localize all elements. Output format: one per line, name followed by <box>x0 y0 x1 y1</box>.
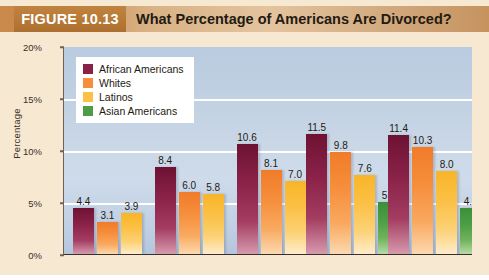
bar-wrapper: 9.8 <box>330 47 351 254</box>
legend-item-label: Whites <box>99 77 131 89</box>
legend-swatch-icon <box>83 64 93 74</box>
figure-container: FIGURE 10.13 What Percentage of American… <box>0 0 489 280</box>
bar-group-1990: 10.68.17.0 <box>237 47 309 254</box>
bar-wrapper: 8.0 <box>436 47 457 254</box>
bar-value-label: 3.9 <box>111 201 151 212</box>
y-tick-label: 0% <box>0 250 42 261</box>
chart-legend: African AmericansWhitesLatinosAsian Amer… <box>76 57 194 123</box>
figure-title: What Percentage of Americans Are Divorce… <box>136 6 452 32</box>
y-tick-label: 10% <box>0 146 42 157</box>
legend-swatch-icon <box>83 92 93 102</box>
bar-asian-2010[interactable] <box>460 208 472 254</box>
bar-wrapper: 11.4 <box>388 47 409 254</box>
bar-latino-2000[interactable] <box>354 175 375 254</box>
bar-latino-2010[interactable] <box>436 171 457 254</box>
bar-white-1970[interactable] <box>97 222 118 254</box>
bar-latino-1990[interactable] <box>285 181 306 254</box>
legend-item-latino: Latinos <box>83 90 184 104</box>
bar-african-2000[interactable] <box>306 134 327 254</box>
figure-number-badge: FIGURE 10.13 <box>14 6 126 32</box>
bar-wrapper: 8.1 <box>261 47 282 254</box>
bar-value-label: 4.4 <box>451 196 472 207</box>
bar-value-label: 5.8 <box>193 182 233 193</box>
bottom-strip <box>0 275 489 280</box>
legend-item-label: African Americans <box>99 63 184 75</box>
bar-wrapper: 7.6 <box>354 47 375 254</box>
bar-wrapper: 4.4 <box>460 47 472 254</box>
bar-white-1980[interactable] <box>179 192 200 254</box>
y-tick-label: 20% <box>0 42 42 53</box>
bar-wrapper: 10.6 <box>237 47 258 254</box>
legend-item-asian: Asian Americans <box>83 104 184 118</box>
legend-item-label: Latinos <box>99 91 133 103</box>
bar-wrapper: 10.3 <box>412 47 433 254</box>
bar-latino-1970[interactable] <box>121 213 142 254</box>
legend-item-african: African Americans <box>83 62 184 76</box>
y-tick-mark <box>60 46 64 48</box>
legend-swatch-icon <box>83 78 93 88</box>
bar-white-1990[interactable] <box>261 170 282 254</box>
y-tick-mark <box>60 98 64 100</box>
bar-wrapper: 5.8 <box>203 47 224 254</box>
y-axis-label: Percentage <box>11 94 22 174</box>
y-tick-mark <box>60 254 64 256</box>
y-tick-label: 15% <box>0 94 42 105</box>
y-tick-label: 5% <box>0 198 42 209</box>
y-tick-mark <box>60 202 64 204</box>
bar-latino-1980[interactable] <box>203 194 224 254</box>
bar-african-2010[interactable] <box>388 135 409 254</box>
legend-swatch-icon <box>83 106 93 116</box>
legend-item-label: Asian Americans <box>99 105 177 117</box>
legend-item-white: Whites <box>83 76 184 90</box>
y-tick-mark <box>60 150 64 152</box>
bar-wrapper: 7.0 <box>285 47 306 254</box>
bar-group-2010: 11.410.38.04.4 <box>388 47 472 254</box>
